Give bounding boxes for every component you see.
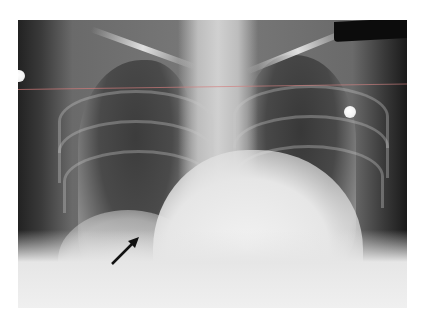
dark-label-marker — [334, 20, 407, 42]
arrow-annotation-icon — [106, 230, 146, 270]
metal-dot-right — [344, 106, 356, 118]
diaphragm-region — [18, 230, 407, 308]
chest-xray-image — [18, 20, 407, 308]
